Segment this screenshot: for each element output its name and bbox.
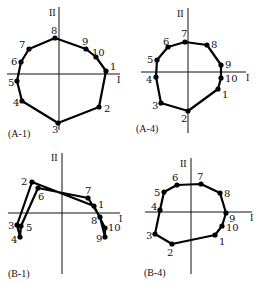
point-label: 6 — [172, 172, 178, 183]
point-label: 5 — [154, 187, 160, 198]
point-label: 10 — [108, 222, 121, 233]
data-point — [219, 223, 224, 228]
point-label: 8 — [224, 188, 230, 199]
point-label: 2 — [104, 103, 110, 114]
point-label: 4 — [146, 74, 152, 85]
data-point — [18, 223, 23, 228]
point-label: 8 — [211, 39, 217, 50]
data-point — [96, 104, 101, 109]
data-point — [29, 179, 34, 184]
data-point — [182, 39, 187, 44]
point-label: 3 — [152, 100, 158, 111]
point-label: 5 — [147, 54, 153, 65]
data-point — [154, 57, 159, 62]
data-point — [14, 78, 19, 83]
point-label: 5 — [8, 77, 14, 88]
data-point — [83, 46, 88, 51]
axis-label-horizontal: I — [250, 212, 253, 223]
point-label: 2 — [167, 247, 173, 258]
data-point — [103, 68, 108, 73]
panel-caption: (B-1) — [8, 268, 30, 280]
panel-caption: (B-4) — [144, 267, 166, 279]
point-label: 4 — [11, 234, 17, 245]
point-label: 9 — [82, 36, 88, 47]
data-point — [97, 214, 102, 219]
point-label: 3 — [8, 220, 14, 231]
point-label: 8 — [91, 215, 97, 226]
panel-a1: III12345678910(A-1) — [7, 7, 120, 140]
axis-label-vertical: II — [180, 158, 187, 169]
axis-label-horizontal: I — [117, 74, 120, 85]
point-label: 10 — [92, 47, 105, 58]
point-label: 1 — [98, 199, 104, 210]
axis-label-vertical: II — [177, 8, 184, 19]
data-point — [102, 234, 107, 239]
data-point — [212, 232, 217, 237]
data-point — [198, 181, 203, 186]
data-point — [218, 75, 223, 80]
point-label: 9 — [96, 233, 102, 244]
panel-b4: III12345678910(B-4) — [144, 158, 253, 279]
data-point — [223, 210, 228, 215]
point-label: 5 — [26, 222, 32, 233]
panel-a4: III12345678910(A-4) — [136, 8, 249, 135]
data-point — [174, 182, 179, 187]
data-point — [215, 86, 220, 91]
data-point — [169, 241, 174, 246]
point-label: 8 — [51, 25, 57, 36]
point-label: 3 — [52, 124, 58, 135]
point-label: 7 — [197, 171, 203, 182]
data-point — [153, 74, 158, 79]
point-label: 4 — [151, 201, 157, 212]
panel-b1: III12345678910(B-1) — [8, 152, 122, 280]
data-point — [152, 231, 157, 236]
data-point — [157, 207, 162, 212]
data-point — [17, 234, 22, 239]
point-label: 2 — [21, 176, 27, 187]
data-point — [35, 185, 40, 190]
figure-canvas: III12345678910(A-1) III12345678910(A-4) … — [0, 0, 258, 283]
point-label: 6 — [11, 56, 17, 67]
data-point — [102, 225, 107, 230]
point-label: 7 — [19, 39, 25, 50]
point-label: 4 — [13, 97, 19, 108]
data-point — [217, 190, 222, 195]
data-point — [91, 203, 96, 208]
point-label: 3 — [146, 230, 152, 241]
axis-label-vertical: II — [51, 152, 58, 163]
point-label: 6 — [163, 36, 169, 47]
axis-label-vertical: II — [49, 7, 56, 18]
point-label: 6 — [38, 191, 44, 202]
point-label: 1 — [222, 89, 228, 100]
data-point — [204, 42, 209, 47]
point-label: 2 — [181, 113, 187, 124]
point-label: 7 — [85, 185, 91, 196]
data-point — [158, 100, 163, 105]
point-label: 1 — [110, 61, 116, 72]
point-label: 10 — [225, 73, 238, 84]
data-point — [26, 46, 31, 51]
data-point — [19, 98, 24, 103]
panel-caption: (A-4) — [136, 123, 158, 135]
point-label: 7 — [181, 28, 187, 39]
data-point — [161, 189, 166, 194]
data-point — [52, 35, 57, 40]
data-point — [85, 195, 90, 200]
axis-label-horizontal: I — [246, 72, 249, 83]
point-label: 10 — [226, 222, 239, 233]
point-label: 1 — [219, 236, 225, 247]
point-label: 9 — [225, 59, 231, 70]
data-point — [18, 59, 23, 64]
panel-caption: (A-1) — [8, 128, 30, 140]
data-point — [218, 62, 223, 67]
